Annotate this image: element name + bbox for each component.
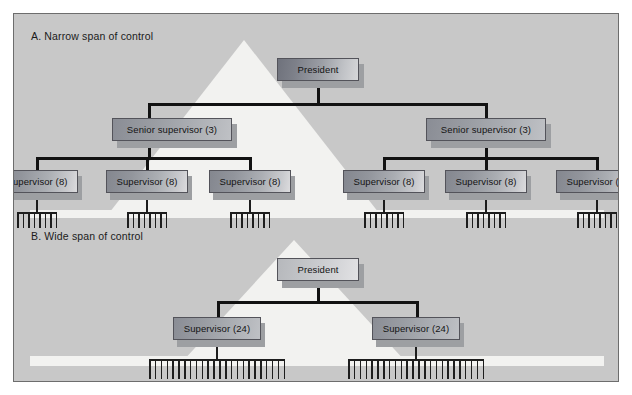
comb-tooth [213, 359, 215, 379]
subordinate-comb [348, 359, 484, 379]
section-wide-span: B. Wide span of control President Superv… [14, 218, 618, 382]
section-label-b: B. Wide span of control [31, 230, 143, 242]
comb-tooth [360, 359, 362, 379]
comb-tooth [127, 212, 129, 228]
comb-tooth [483, 359, 485, 379]
comb-tooth [202, 359, 204, 379]
connector-vertical [249, 157, 252, 171]
node-supervisor-5[interactable]: Supervisor (8) [445, 170, 527, 193]
comb-tooth [366, 359, 368, 379]
comb-tooth [616, 212, 618, 228]
subordinate-comb [577, 212, 617, 228]
subordinate-comb [149, 359, 285, 379]
node-supervisor-6[interactable]: Supervisor (8) [556, 170, 619, 193]
connector-vertical [148, 103, 151, 119]
comb-tooth [505, 212, 507, 228]
comb-tooth [599, 212, 601, 228]
comb-tooth [39, 212, 41, 228]
comb-tooth [371, 359, 373, 379]
comb-tooth [248, 359, 250, 379]
node-supervisor-4[interactable]: Supervisor (8) [343, 170, 425, 193]
subordinate-comb [230, 212, 270, 228]
comb-tooth [605, 212, 607, 228]
comb-tooth [594, 212, 596, 228]
comb-tooth [272, 359, 274, 379]
node-president-a[interactable]: President [277, 58, 359, 81]
comb-tooth [436, 359, 438, 379]
comb-tooth [397, 212, 399, 228]
comb-tooth [395, 359, 397, 379]
subordinate-comb [466, 212, 506, 228]
node-supervisor-2[interactable]: Supervisor (8) [106, 170, 188, 193]
connector-horizontal [148, 103, 488, 106]
subordinate-comb [364, 212, 404, 228]
comb-tooth [161, 359, 163, 379]
comb-tooth [389, 359, 391, 379]
connector-vertical [383, 157, 386, 171]
comb-tooth [56, 212, 58, 228]
pyramid-base-b [30, 356, 604, 366]
comb-tooth [219, 359, 221, 379]
comb-tooth [477, 212, 479, 228]
comb-tooth [465, 359, 467, 379]
node-supervisor-24-left[interactable]: Supervisor (24) [173, 317, 261, 340]
comb-tooth [45, 212, 47, 228]
comb-tooth [284, 359, 286, 379]
comb-tooth [50, 212, 52, 228]
connector-horizontal [36, 157, 252, 160]
comb-tooth [442, 359, 444, 379]
comb-tooth [184, 359, 186, 379]
comb-bar [348, 359, 484, 361]
comb-tooth [459, 359, 461, 379]
comb-tooth [190, 359, 192, 379]
comb-tooth [583, 212, 585, 228]
comb-tooth [483, 212, 485, 228]
comb-tooth [472, 212, 474, 228]
connector-vertical [416, 301, 419, 318]
comb-tooth [231, 359, 233, 379]
node-senior-supervisor-left[interactable]: Senior supervisor (3) [112, 118, 232, 141]
comb-tooth [260, 359, 262, 379]
comb-tooth [172, 359, 174, 379]
comb-tooth [237, 359, 239, 379]
subordinate-comb [17, 212, 57, 228]
connector-vertical [596, 157, 599, 171]
connector-vertical [217, 301, 220, 318]
connector-vertical [485, 103, 488, 119]
node-president-b[interactable]: President [277, 258, 359, 281]
comb-tooth [230, 212, 232, 228]
comb-tooth [133, 212, 135, 228]
comb-tooth [258, 212, 260, 228]
comb-tooth [17, 212, 19, 228]
comb-tooth [138, 212, 140, 228]
comb-tooth [383, 359, 385, 379]
connector-horizontal [383, 157, 599, 160]
comb-tooth [453, 359, 455, 379]
comb-tooth [196, 359, 198, 379]
comb-tooth [499, 212, 501, 228]
node-supervisor-1[interactable]: Supervisor (8) [13, 170, 78, 193]
node-senior-supervisor-right[interactable]: Senior supervisor (3) [426, 118, 546, 141]
comb-tooth [381, 212, 383, 228]
comb-tooth [254, 359, 256, 379]
comb-tooth [403, 212, 405, 228]
comb-tooth [488, 212, 490, 228]
comb-tooth [577, 212, 579, 228]
connector-vertical [146, 157, 149, 171]
comb-tooth [167, 359, 169, 379]
comb-tooth [160, 212, 162, 228]
comb-tooth [370, 212, 372, 228]
comb-tooth [269, 212, 271, 228]
comb-tooth [247, 212, 249, 228]
comb-tooth [149, 359, 151, 379]
comb-tooth [494, 212, 496, 228]
comb-tooth [266, 359, 268, 379]
comb-bar [149, 359, 285, 361]
node-supervisor-3[interactable]: Supervisor (8) [209, 170, 291, 193]
comb-tooth [406, 359, 408, 379]
comb-tooth [225, 359, 227, 379]
connector-vertical [485, 157, 488, 171]
comb-tooth [241, 212, 243, 228]
node-supervisor-24-right[interactable]: Supervisor (24) [372, 317, 460, 340]
comb-tooth [28, 212, 30, 228]
